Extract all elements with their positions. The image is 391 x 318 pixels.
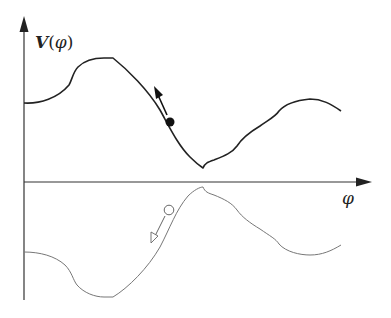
y-axis-label: V(φ) xyxy=(35,32,73,52)
hollow-ball-group xyxy=(151,205,174,243)
y-axis xyxy=(20,16,29,300)
x-axis-arrowhead-icon xyxy=(356,178,372,187)
down-arrow-icon xyxy=(151,232,158,243)
hollow-ball xyxy=(164,205,174,215)
filled-ball xyxy=(166,118,175,127)
x-axis xyxy=(24,178,372,187)
up-arrow-shaft xyxy=(158,95,167,115)
up-arrow-icon xyxy=(154,86,163,99)
potential-curve xyxy=(24,58,341,168)
potential-diagram: V(φ) φ xyxy=(0,0,391,318)
y-axis-arrowhead-icon xyxy=(20,16,29,32)
down-arrow-shaft xyxy=(155,216,165,236)
x-axis-label: φ xyxy=(342,188,354,208)
inverted-curve xyxy=(24,187,341,297)
